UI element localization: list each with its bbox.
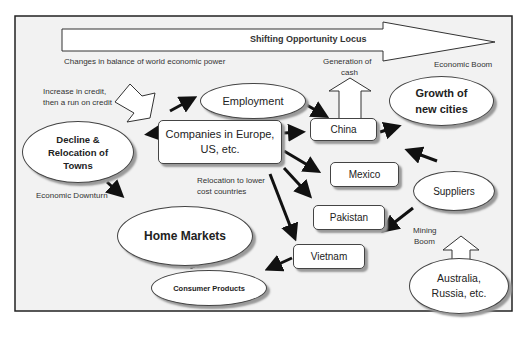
mexico-label: Mexico xyxy=(349,169,381,180)
node-vietnam: Vietnam xyxy=(293,244,365,269)
consumer-products-label: Consumer Products xyxy=(173,284,245,293)
generation-label-line1: Generation of xyxy=(323,56,371,67)
china-label: China xyxy=(330,124,356,135)
decline-label-line1: Decline & xyxy=(56,133,99,146)
generation-label-line2: cash xyxy=(341,67,358,78)
node-decline: Decline & Relocation of Towns xyxy=(22,121,134,183)
suppliers-label: Suppliers xyxy=(433,186,475,197)
australia-label-line1: Australia, xyxy=(437,271,481,286)
relocation-label-line2: cost countries xyxy=(197,186,246,197)
node-consumer-products: Consumer Products xyxy=(151,270,267,306)
node-growth: Growth of new cities xyxy=(389,76,494,126)
node-home-markets: Home Markets xyxy=(117,206,253,266)
node-companies: Companies in Europe, US, etc. xyxy=(158,120,282,164)
growth-label-line2: new cities xyxy=(415,101,468,117)
changes-label: Changes in balance of world economic pow… xyxy=(64,56,225,67)
relocation-label-line1: Relocation to lower xyxy=(197,175,265,186)
economic-boom-label: Economic Boom xyxy=(434,59,492,70)
employment-label: Employment xyxy=(222,95,283,107)
node-australia-russia: Australia, Russia, etc. xyxy=(409,258,509,314)
decline-label-line3: Towns xyxy=(63,159,92,172)
australia-label-line2: Russia, etc. xyxy=(432,286,487,301)
node-mexico: Mexico xyxy=(330,162,399,187)
home-markets-label: Home Markets xyxy=(144,229,226,243)
companies-label-line1: Companies in Europe, xyxy=(166,127,275,142)
node-china: China xyxy=(310,118,377,141)
economic-downturn-label: Economic Downturn xyxy=(36,190,108,201)
mining-label-line2: Boom xyxy=(414,236,435,247)
node-suppliers: Suppliers xyxy=(413,171,495,211)
vietnam-label: Vietnam xyxy=(311,251,348,262)
banner-title: Shifting Opportunity Locus xyxy=(250,34,367,45)
node-employment: Employment xyxy=(200,83,306,119)
companies-label-line2: US, etc. xyxy=(200,142,239,157)
node-pakistan: Pakistan xyxy=(313,205,385,230)
credit-label-line1: Increase in credit, xyxy=(43,86,106,97)
decline-label-line2: Relocation of xyxy=(48,146,108,159)
mining-label-line1: Mining xyxy=(413,225,437,236)
pakistan-label: Pakistan xyxy=(330,212,368,223)
growth-label-line1: Growth of xyxy=(416,85,468,101)
credit-label-line2: then a run on credit xyxy=(43,97,112,108)
